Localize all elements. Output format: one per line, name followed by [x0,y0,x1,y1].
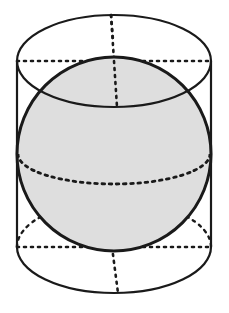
sphere-in-cylinder-diagram: Sphere inscribed in a cylinder [0,0,229,313]
figure-container: Sphere inscribed in a cylinder [0,0,229,313]
